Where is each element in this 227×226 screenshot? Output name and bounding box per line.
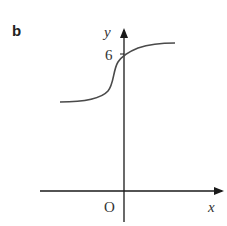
x-axis-label: x [207,199,215,215]
y-intercept-label: 6 [105,47,113,63]
y-axis-label: y [102,24,111,40]
s-curve [60,43,175,102]
origin-label: O [104,199,115,215]
graph: y 6 O x [0,0,227,226]
